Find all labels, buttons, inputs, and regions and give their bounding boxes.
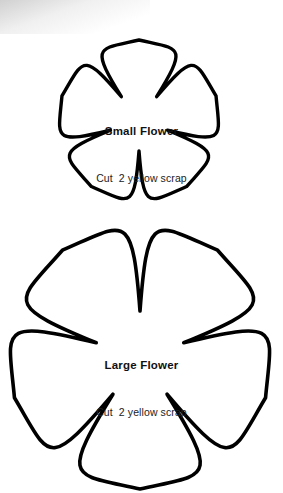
pattern-sheet-page: Small Flower Cut 2 yellow scrap Large Fl… xyxy=(0,0,283,493)
large-flower-instruction: Cut 2 yellow scrap xyxy=(0,407,283,418)
large-flower-label-block: Large Flower Cut 2 yellow scrap xyxy=(0,328,283,449)
large-flower-title: Large Flower xyxy=(0,360,283,372)
